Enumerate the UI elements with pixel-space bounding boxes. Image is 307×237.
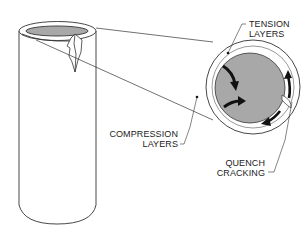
cylinder bbox=[19, 22, 96, 225]
svg-text:LAYERS: LAYERS bbox=[143, 139, 178, 149]
magnification-lines bbox=[36, 28, 213, 120]
svg-text:CRACKING: CRACKING bbox=[217, 168, 265, 178]
cross-section bbox=[196, 40, 300, 134]
svg-text:TENSION: TENSION bbox=[249, 19, 290, 29]
cylinder-core-section bbox=[26, 26, 88, 36]
svg-text:QUENCH: QUENCH bbox=[225, 158, 265, 168]
compression-label: COMPRESSION LAYERS bbox=[109, 129, 178, 149]
compression-core bbox=[215, 53, 285, 123]
quench-cracking-label: QUENCH CRACKING bbox=[217, 158, 265, 178]
tension-label: TENSION LAYERS bbox=[249, 19, 290, 39]
svg-text:COMPRESSION: COMPRESSION bbox=[109, 129, 178, 139]
svg-text:LAYERS: LAYERS bbox=[249, 29, 284, 39]
cylinder-bottom-edge bbox=[19, 205, 96, 224]
quench-cracking-diagram: TENSION LAYERS COMPRESSION LAYERS QUENCH… bbox=[0, 0, 307, 237]
